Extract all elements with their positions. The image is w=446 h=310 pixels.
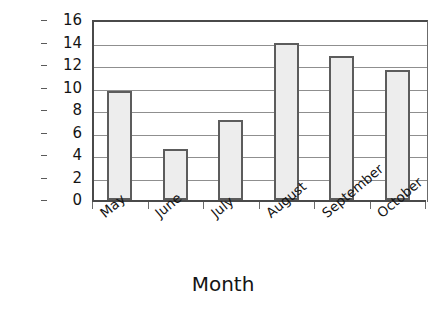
y-axis-tick-labels: 0246810121416 [46, 20, 82, 200]
x-axis-tick-mark [203, 202, 204, 209]
y-axis-tick-mark [41, 20, 47, 21]
x-axis-tick-mark [92, 202, 93, 209]
x-axis-tick-mark [259, 202, 260, 209]
y-axis-tick-label: 8 [72, 103, 82, 118]
x-axis-tick-mark [370, 202, 371, 209]
x-axis-tick-mark [314, 202, 315, 209]
x-axis-title: Month [0, 272, 446, 296]
y-axis-tick-label: 2 [72, 170, 82, 185]
y-axis-tick-mark [41, 200, 47, 201]
y-axis-tick-mark [41, 133, 47, 134]
y-axis-tick-label: 4 [72, 148, 82, 163]
y-axis-tick-label: 0 [72, 193, 82, 208]
y-axis-tick-label: 16 [63, 13, 82, 28]
bar [107, 91, 132, 200]
bar [274, 43, 299, 201]
y-axis-tick-mark [41, 88, 47, 89]
y-axis-tick-mark [41, 65, 47, 66]
y-axis-tick-mark [41, 155, 47, 156]
bar [218, 120, 243, 200]
y-axis-tick-label: 10 [63, 80, 82, 95]
x-axis-tick-mark [148, 202, 149, 209]
y-axis-tick-mark [41, 43, 47, 44]
y-axis-tick-label: 6 [72, 125, 82, 140]
x-axis-tick-mark [425, 202, 426, 209]
y-axis-tick-mark [41, 178, 47, 179]
y-axis-tick-label: 12 [63, 58, 82, 73]
bar-chart: Percentage 0246810121416 MayJuneJulyAugu… [0, 0, 446, 310]
bar [329, 56, 354, 200]
y-axis-tick-mark [41, 110, 47, 111]
x-axis-category-labels: MayJuneJulyAugustSeptemberOctober [0, 210, 446, 272]
y-axis-tick-label: 14 [63, 35, 82, 50]
